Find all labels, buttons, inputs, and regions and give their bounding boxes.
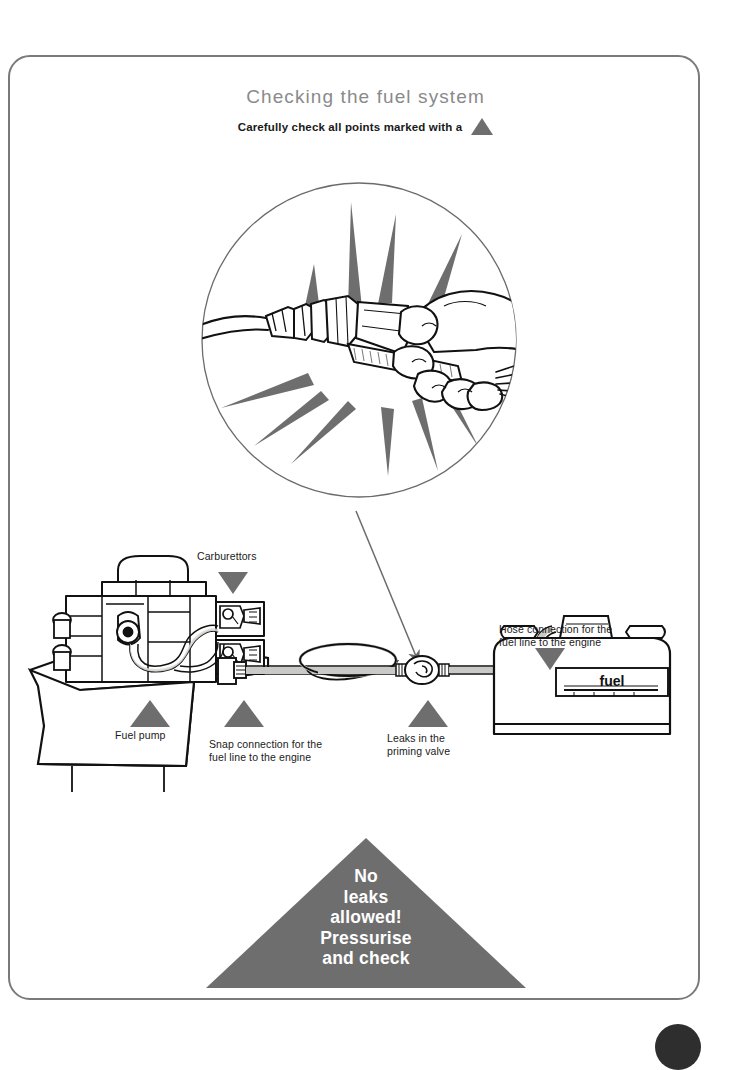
triangle-up-icon-snap-connection <box>224 700 264 727</box>
fuel-system-diagram: fuel <box>18 520 686 810</box>
triangle-up-icon-priming-valve <box>408 700 448 727</box>
subtitle-row: Carefully check all points marked with a <box>0 118 731 135</box>
triangle-up-icon <box>471 118 493 135</box>
label-fuel-pump: Fuel pump <box>115 729 166 742</box>
page-title: Checking the fuel system <box>0 86 731 108</box>
warning-text: No leaks allowed! Pressurise and check <box>206 866 526 969</box>
warning-callout: No leaks allowed! Pressurise and check <box>206 838 526 990</box>
label-carburettors: Carburettors <box>197 550 257 563</box>
triangle-down-icon-hose-connection <box>535 648 565 670</box>
label-hose-connection: Hose connection for the fuel line to the… <box>499 623 612 649</box>
inset-illustration <box>196 176 526 516</box>
triangle-down-icon-carburettors <box>218 572 248 594</box>
subtitle-text: Carefully check all points marked with a <box>238 121 463 133</box>
page-corner-marker <box>655 1024 701 1070</box>
label-priming-valve: Leaks in the priming valve <box>387 732 450 758</box>
label-snap-connection: Snap connection for the fuel line to the… <box>209 738 322 764</box>
triangle-up-icon-fuel-pump <box>130 700 170 727</box>
fuel-gauge-label: fuel <box>600 673 625 689</box>
